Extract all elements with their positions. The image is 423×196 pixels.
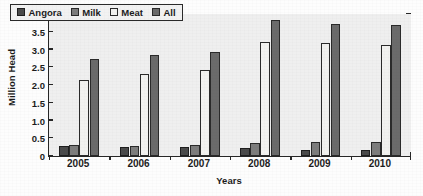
bar-meat-2006	[140, 74, 150, 156]
bar-meat-2007	[200, 70, 210, 156]
bar-angora-2007	[180, 147, 190, 156]
bar-group-2009	[290, 14, 350, 156]
bar-meat-2009	[321, 43, 331, 156]
x-tick-label: 2009	[308, 158, 330, 169]
bar-group-2006	[109, 14, 169, 156]
bar-all-2005	[90, 59, 100, 156]
bar-all-2008	[271, 20, 281, 156]
legend-swatch-milk-icon	[71, 8, 79, 16]
legend-entry-all: All	[152, 8, 176, 18]
x-tick-label: 2005	[67, 158, 89, 169]
plot-area	[48, 14, 411, 157]
legend-entry-milk: Milk	[71, 8, 101, 18]
bar-milk-2007	[190, 145, 200, 156]
legend-swatch-angora-icon	[17, 8, 25, 16]
bar-group-2007	[170, 14, 230, 156]
bar-all-2006	[150, 55, 160, 156]
legend-label: Angora	[29, 8, 62, 18]
bar-angora-2009	[301, 150, 311, 156]
x-tick-mark	[410, 156, 411, 160]
legend-entry-angora: Angora	[17, 8, 62, 18]
bar-all-2007	[210, 52, 220, 156]
bar-angora-2008	[240, 148, 250, 156]
legend-label: Milk	[82, 8, 100, 18]
x-axis-tick-labels: 200520062007200820092010	[48, 158, 410, 172]
bar-angora-2006	[120, 147, 130, 156]
bar-milk-2008	[250, 143, 260, 156]
y-tick-label: 0	[40, 151, 45, 162]
x-tick-label: 2007	[188, 158, 210, 169]
legend-swatch-all-icon	[152, 8, 160, 16]
bar-milk-2005	[69, 145, 79, 156]
y-tick-label: 1.5	[32, 97, 45, 108]
bar-meat-2005	[79, 80, 89, 156]
bar-chart-figure: Million Head 00.51.01.52.02.53.03.54.0 2…	[0, 0, 423, 196]
y-tick-label: 2.5	[32, 62, 45, 73]
bar-all-2010	[391, 25, 401, 156]
bar-milk-2006	[130, 146, 140, 156]
bar-group-2005	[49, 14, 109, 156]
x-tick-label: 2008	[248, 158, 270, 169]
bar-meat-2010	[381, 45, 391, 156]
x-tick-label: 2006	[127, 158, 149, 169]
bar-group-2010	[351, 14, 411, 156]
y-tick-label: 1.0	[32, 115, 45, 126]
y-tick-label: 3.0	[32, 44, 45, 55]
bar-meat-2008	[260, 42, 270, 156]
bar-angora-2005	[59, 146, 69, 156]
chart-legend: AngoraMilkMeatAll	[10, 4, 183, 21]
legend-entry-meat: Meat	[110, 8, 143, 18]
x-axis-title: Years	[48, 175, 410, 186]
legend-swatch-meat-icon	[110, 8, 118, 16]
bar-milk-2009	[311, 142, 321, 156]
legend-label: Meat	[121, 8, 143, 18]
bar-all-2009	[331, 24, 341, 156]
y-axis-title: Million Head	[2, 0, 20, 155]
y-tick-label: 2.0	[32, 80, 45, 91]
y-axis-tick-labels: 00.51.01.52.02.53.03.54.0	[20, 8, 45, 156]
legend-label: All	[163, 8, 175, 18]
y-tick-label: 3.5	[32, 26, 45, 37]
bar-milk-2010	[371, 142, 381, 156]
y-tick-label: 0.5	[32, 133, 45, 144]
bar-group-2008	[230, 14, 290, 156]
x-tick-label: 2010	[369, 158, 391, 169]
bar-angora-2010	[361, 150, 371, 156]
